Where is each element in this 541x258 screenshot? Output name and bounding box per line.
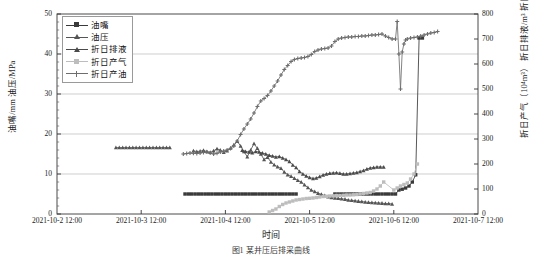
data-marker	[190, 192, 193, 195]
data-marker	[374, 192, 377, 195]
series-line	[269, 164, 417, 212]
data-marker	[387, 192, 390, 195]
y-axis-left-title: 油嘴/mm 油压/MPa	[8, 61, 18, 133]
y-tick-label-right: 800	[482, 9, 493, 18]
legend-label: 折日排液	[91, 44, 127, 54]
data-marker	[380, 32, 384, 36]
data-marker	[252, 111, 256, 115]
data-marker	[284, 201, 287, 204]
y-tick-label-left: 20	[24, 129, 52, 138]
data-marker	[342, 194, 345, 197]
data-marker	[377, 192, 380, 195]
legend-item-折日排液[interactable]: 折日排液	[66, 43, 127, 55]
data-marker	[311, 196, 314, 199]
data-marker	[278, 205, 281, 208]
legend-item-折日产油[interactable]: 折日产油	[66, 68, 127, 80]
data-marker	[390, 192, 393, 195]
data-marker	[291, 192, 294, 195]
data-marker	[400, 50, 404, 54]
x-tick-label: 2021-10-5 12:00	[265, 216, 355, 225]
data-marker	[304, 174, 308, 178]
data-marker	[252, 142, 256, 146]
y-tick-label-left: 10	[24, 169, 52, 178]
data-marker	[210, 192, 213, 195]
data-marker	[271, 192, 274, 195]
data-marker	[402, 42, 406, 46]
data-marker	[315, 196, 318, 199]
y-tick-label-right: 200	[482, 159, 493, 168]
data-marker	[352, 193, 355, 196]
data-marker	[346, 35, 350, 39]
data-marker	[281, 203, 284, 206]
legend-label: 油压	[91, 32, 109, 42]
data-marker	[276, 165, 280, 169]
data-marker	[369, 191, 372, 194]
data-marker	[345, 193, 348, 196]
data-marker	[197, 192, 200, 195]
y-tick-label-left: 40	[24, 49, 52, 58]
data-marker	[335, 194, 338, 197]
data-marker	[395, 20, 399, 24]
data-marker	[332, 194, 335, 197]
data-marker	[411, 180, 414, 183]
x-tick-label: 2021-10-3 12:00	[96, 216, 186, 225]
data-marker	[308, 197, 311, 200]
series-line	[335, 38, 423, 194]
data-marker	[321, 195, 324, 198]
data-marker	[244, 192, 247, 195]
y-tick-label-right: 100	[482, 184, 493, 193]
data-marker	[284, 192, 287, 195]
data-marker	[251, 192, 254, 195]
legend-item-折日产气[interactable]: 折日产气	[66, 56, 127, 68]
y-tick-label-right: 300	[482, 134, 493, 143]
data-marker	[212, 152, 216, 156]
figure-caption: 图1 某井压后排采曲线	[0, 244, 541, 255]
data-marker	[254, 192, 257, 195]
data-marker	[362, 192, 365, 195]
data-marker	[375, 187, 378, 190]
data-marker	[193, 192, 196, 195]
data-marker	[328, 194, 331, 197]
legend-item-油压[interactable]: 油压	[66, 31, 127, 43]
series-油嘴	[185, 38, 422, 194]
x-tick-label: 2021-10-2 12:00	[12, 216, 102, 225]
data-marker	[281, 192, 284, 195]
data-marker	[305, 197, 308, 200]
data-marker	[382, 180, 385, 183]
data-marker	[380, 192, 383, 195]
data-marker	[239, 133, 243, 137]
legend-marker-icon	[66, 44, 88, 54]
legend-marker-icon	[66, 20, 88, 30]
data-marker	[257, 192, 260, 195]
data-marker	[215, 147, 219, 151]
data-marker	[396, 186, 399, 189]
data-marker	[224, 192, 227, 195]
data-marker	[401, 188, 404, 191]
y-tick-label-right: 600	[482, 59, 493, 68]
data-marker	[294, 198, 297, 201]
data-marker	[287, 159, 291, 163]
chart-figure: 油嘴/mm 油压/MPa 折日产气（10⁴m³） 折日排液/m³ 折日产油/m³…	[0, 0, 541, 258]
legend-item-油嘴[interactable]: 油嘴	[66, 19, 127, 31]
data-marker	[278, 192, 281, 195]
data-marker	[214, 192, 217, 195]
data-marker	[264, 192, 267, 195]
data-marker	[404, 186, 407, 189]
data-marker	[274, 192, 277, 195]
data-marker	[384, 192, 387, 195]
data-marker	[392, 188, 395, 191]
legend-label: 油嘴	[91, 20, 109, 30]
data-marker	[394, 192, 397, 195]
data-marker	[240, 148, 244, 152]
x-tick-label: 2021-10-4 12:00	[180, 216, 270, 225]
y-tick-label-left: 50	[24, 9, 52, 18]
data-marker	[271, 209, 274, 212]
x-tick-label: 2021-10-7 12:00	[433, 216, 523, 225]
data-marker	[187, 192, 190, 195]
data-marker	[200, 192, 203, 195]
data-marker	[279, 73, 283, 77]
legend-marker-icon	[66, 57, 88, 67]
data-marker	[325, 195, 328, 198]
data-marker	[399, 184, 402, 187]
data-marker	[399, 87, 403, 91]
